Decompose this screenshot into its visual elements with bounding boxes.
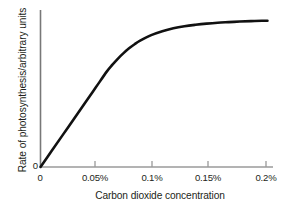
x-tick-label-0.2: 0.2% [244,172,288,183]
y-axis-zero-label: 0 [28,160,38,171]
x-axis-title: Carbon dioxide concentration [40,190,280,201]
x-tick-label-0: 0 [32,172,48,183]
x-tick-label-0.1: 0.1% [130,172,174,183]
x-axis-ticks [95,161,266,167]
x-tick-label-0.05: 0.05% [73,172,117,183]
y-axis-title: Rate of photosynthesis/arbitrary units [16,5,30,175]
photosynthesis-rate-curve [41,21,268,167]
x-tick-label-0.15: 0.15% [186,172,230,183]
chart-figure: Rate of photosynthesis/arbitrary units 0… [0,0,290,211]
